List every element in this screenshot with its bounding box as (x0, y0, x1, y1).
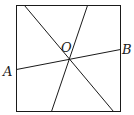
label-b: B (121, 42, 132, 57)
geometry-diagram: O A B (0, 0, 134, 115)
label-a: A (2, 64, 12, 79)
steep-line (52, 6, 88, 112)
label-o: O (61, 40, 72, 55)
